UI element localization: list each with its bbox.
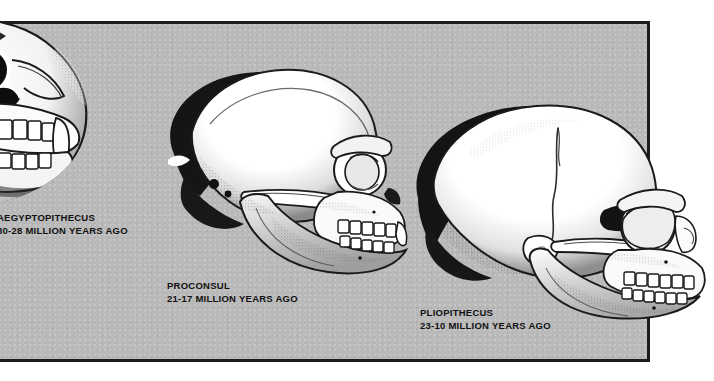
skull-figure-pliopithecus [408, 92, 708, 316]
species-age: 30-28 MILLION YEARS AGO [0, 225, 128, 238]
species-name: PLIOPITHECUS [420, 307, 551, 320]
illustration-plate: AEGYPTOPITHECUS 30-28 MILLION YEARS AGO … [0, 0, 714, 381]
caption-pliopithecus: PLIOPITHECUS 23-10 MILLION YEARS AGO [420, 307, 551, 332]
skull-figure-aegyptopithecus [0, 14, 146, 210]
species-age: 23-10 MILLION YEARS AGO [420, 320, 551, 333]
species-age: 21-17 MILLION YEARS AGO [167, 293, 298, 306]
skull-icon [152, 62, 414, 284]
species-name: AEGYPTOPITHECUS [0, 212, 128, 225]
caption-proconsul: PROCONSUL 21-17 MILLION YEARS AGO [167, 280, 298, 305]
skull-icon [0, 14, 146, 210]
caption-aegyptopithecus: AEGYPTOPITHECUS 30-28 MILLION YEARS AGO [0, 212, 128, 237]
skull-figure-proconsul [152, 62, 414, 284]
skull-icon [408, 92, 708, 316]
species-name: PROCONSUL [167, 280, 298, 293]
